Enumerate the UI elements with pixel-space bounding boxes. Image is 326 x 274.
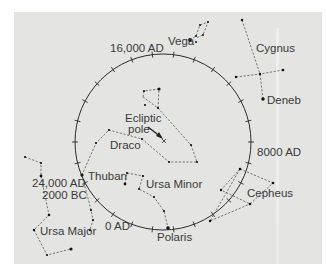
- thuban-label: Thuban: [88, 170, 127, 182]
- circle-tick: [211, 67, 214, 72]
- circle-tick: [173, 52, 174, 58]
- epoch-16000-ad-label: 16,000 AD: [110, 42, 164, 54]
- pole-label: pole: [128, 123, 150, 135]
- deneb-label: Deneb: [267, 94, 301, 106]
- cygnus-label: Cygnus: [256, 42, 295, 54]
- epoch-8000-ad-label: 8000 AD: [257, 146, 301, 158]
- epoch-2000-bc-label: 2000 BC: [42, 189, 87, 201]
- circle-tick: [111, 67, 114, 72]
- deneb-star: [261, 97, 264, 100]
- vega-label: Vega: [168, 35, 195, 47]
- cepheus-label: Cepheus: [247, 187, 293, 199]
- cygnus-lines: [236, 20, 283, 99]
- polaris-label: Polaris: [157, 231, 192, 243]
- circle-tick: [111, 212, 114, 217]
- ursa-minor-label: Ursa Minor: [146, 178, 202, 190]
- ecliptic-pole-marker: [162, 139, 166, 143]
- precession-diagram: 16,000 AD 8000 AD 0 AD 24,000 AD 2000 BC…: [0, 0, 326, 274]
- circle-tick: [152, 226, 153, 232]
- ecliptic-pole-arrow: [148, 127, 163, 139]
- epoch-0-ad-label: 0 AD: [105, 220, 130, 232]
- polaris-star: [166, 226, 170, 230]
- draco-label: Draco: [110, 139, 141, 151]
- ursa-major-label: Ursa Major: [40, 225, 96, 237]
- ursa-major-lines: [25, 157, 93, 255]
- epoch-24000-ad-label: 24,000 AD: [32, 177, 86, 189]
